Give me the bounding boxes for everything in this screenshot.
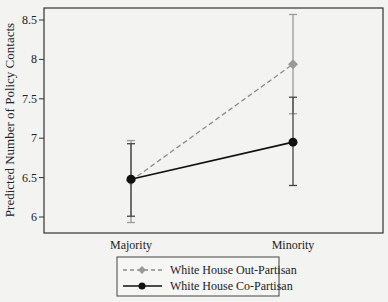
- y-axis: 66.577.588.5: [22, 13, 44, 224]
- legend-circle-icon: [139, 283, 146, 290]
- series-co-partisan: [127, 97, 298, 216]
- circle-marker: [127, 175, 136, 184]
- legend: White House Out-PartisanWhite House Co-P…: [117, 257, 297, 296]
- plot-frame: [44, 8, 383, 233]
- diamond-marker: [288, 59, 298, 69]
- line-chart: 66.577.588.5 Predicted Number of Policy …: [0, 0, 388, 302]
- y-tick-label: 6.5: [22, 171, 37, 185]
- y-tick-label: 6: [31, 210, 37, 224]
- legend-label: White House Co-Partisan: [170, 279, 293, 293]
- y-tick-label: 8.5: [22, 13, 37, 27]
- circle-marker: [289, 138, 298, 147]
- x-axis: MajorityMinority: [110, 238, 314, 252]
- y-tick-label: 8: [31, 52, 37, 66]
- y-tick-label: 7: [31, 131, 37, 145]
- series-out-partisan: [126, 14, 298, 222]
- legend-label: White House Out-Partisan: [170, 263, 297, 277]
- series-line: [131, 64, 293, 181]
- series-line: [131, 142, 293, 179]
- x-tick-label: Majority: [110, 238, 152, 252]
- x-tick-label: Minority: [272, 238, 315, 252]
- y-tick-label: 7.5: [22, 92, 37, 106]
- y-axis-label: Predicted Number of Policy Contacts: [2, 23, 17, 217]
- series-group: [126, 14, 298, 222]
- chart-container: 66.577.588.5 Predicted Number of Policy …: [0, 0, 388, 302]
